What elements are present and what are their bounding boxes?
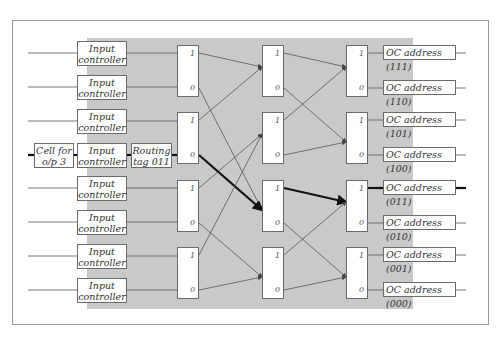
switch-element: 10 (262, 45, 284, 97)
stage1-link (199, 53, 262, 67)
stage2-link (284, 202, 346, 255)
port-0-label: 0 (190, 286, 195, 294)
box-label: controller (78, 89, 126, 100)
stage2-link (284, 67, 346, 120)
port-1-label: 1 (275, 117, 280, 125)
stage1-link (199, 67, 262, 120)
port-1-label: 1 (359, 50, 364, 58)
switch-element: 10 (346, 45, 368, 97)
port-1-label: 1 (190, 252, 195, 260)
switch-element: 10 (346, 247, 368, 299)
stage1-link (199, 134, 262, 255)
port-1-label: 1 (275, 185, 280, 193)
switch-element: 10 (177, 112, 199, 164)
stage1-link (199, 223, 262, 277)
box-label: Input (78, 78, 126, 89)
port-0-label: 0 (275, 219, 280, 227)
input-controller: Inputcontroller (77, 278, 127, 303)
switch-element: 10 (262, 180, 284, 232)
box-label: Cell for (35, 146, 73, 157)
stage2-link (284, 277, 346, 290)
box-label: Input (78, 44, 126, 55)
input-controller: Inputcontroller (77, 41, 127, 66)
box-label: Input (78, 281, 126, 292)
box-label: controller (78, 258, 126, 269)
box-label: controller (78, 157, 126, 168)
box-label: tag 011 (132, 157, 171, 168)
box-label: Input (78, 247, 126, 258)
input-controller: Inputcontroller (77, 176, 127, 201)
box-label: controller (78, 55, 126, 66)
box-label: Routing (132, 146, 171, 157)
port-1-label: 1 (190, 117, 195, 125)
port-0-label: 0 (190, 151, 195, 159)
routing-tag-box: Routingtag 011 (131, 143, 172, 168)
box-label: controller (78, 190, 126, 201)
box-label: o/p 3 (35, 157, 73, 168)
oc-address-box: OC address (110) (383, 80, 456, 95)
box-label: Input (78, 146, 126, 157)
switch-element: 10 (346, 112, 368, 164)
input-controller: Inputcontroller (77, 109, 127, 134)
port-0-label: 0 (190, 219, 195, 227)
switch-element: 10 (346, 180, 368, 232)
oc-address-box: OC address (000) (383, 282, 456, 297)
stage1-link (199, 88, 262, 210)
port-1-label: 1 (359, 252, 364, 260)
port-0-label: 0 (275, 151, 280, 159)
switch-element: 10 (262, 112, 284, 164)
oc-address-box: OC address (111) (383, 45, 456, 60)
box-label: controller (78, 123, 126, 134)
stage2-link (284, 142, 346, 155)
input-controller: Inputcontroller (77, 210, 127, 235)
port-0-label: 0 (359, 84, 364, 92)
stage2-link (284, 188, 346, 202)
stage1-link (199, 134, 262, 188)
port-0-label: 0 (359, 151, 364, 159)
box-label: Input (78, 213, 126, 224)
port-0-label: 0 (190, 84, 195, 92)
input-controller: Inputcontroller (77, 244, 127, 269)
box-label: Input (78, 112, 126, 123)
stage1-link (199, 277, 262, 290)
port-1-label: 1 (275, 50, 280, 58)
port-0-label: 0 (359, 286, 364, 294)
box-label: controller (78, 224, 126, 235)
cell-box: Cell foro/p 3 (34, 143, 74, 168)
stage2-link (284, 88, 346, 142)
oc-address-box: OC address (101) (383, 112, 456, 127)
port-1-label: 1 (359, 185, 364, 193)
oc-address-box: OC address (100) (383, 147, 456, 162)
stage1-link (199, 155, 262, 210)
port-1-label: 1 (190, 185, 195, 193)
oc-address-box: OC address (010) (383, 215, 456, 230)
oc-address-box: OC address (011) (383, 180, 456, 195)
port-0-label: 0 (275, 286, 280, 294)
box-label: controller (78, 292, 126, 303)
box-label: Input (78, 179, 126, 190)
stage2-link (284, 53, 346, 67)
port-0-label: 0 (359, 219, 364, 227)
port-1-label: 1 (359, 117, 364, 125)
stage2-link (284, 223, 346, 277)
input-controller: Inputcontroller (77, 75, 127, 100)
port-1-label: 1 (275, 252, 280, 260)
switch-element: 10 (177, 247, 199, 299)
oc-address-box: OC address (001) (383, 247, 456, 262)
input-controller: Inputcontroller (77, 143, 127, 168)
switch-element: 10 (262, 247, 284, 299)
switch-element: 10 (177, 180, 199, 232)
port-1-label: 1 (190, 50, 195, 58)
port-0-label: 0 (275, 84, 280, 92)
switch-element: 10 (177, 45, 199, 97)
